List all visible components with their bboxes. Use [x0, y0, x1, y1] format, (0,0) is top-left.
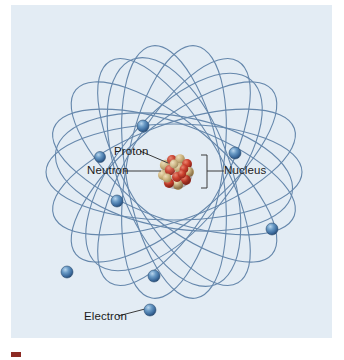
electron-sphere: [144, 304, 156, 316]
electron-sphere: [61, 266, 73, 278]
nucleus-shading: [159, 155, 193, 189]
figure-root: Proton Neutron Nucleus Electron: [0, 0, 344, 360]
atom-diagram-panel: Proton Neutron Nucleus Electron: [11, 5, 332, 338]
caption-marker-icon: [11, 352, 21, 357]
electron-sphere: [229, 147, 241, 159]
label-proton: Proton: [114, 145, 148, 157]
electron-sphere: [266, 223, 278, 235]
atom-illustration: [11, 5, 332, 338]
label-nucleus: Nucleus: [224, 164, 266, 176]
electron-sphere: [95, 152, 106, 163]
electron-sphere: [111, 195, 123, 207]
label-neutron: Neutron: [87, 164, 129, 176]
nucleus-cluster: [158, 154, 194, 190]
nucleus-bracket: [201, 155, 207, 188]
electron-sphere: [137, 120, 149, 132]
electron-sphere: [148, 270, 160, 282]
label-electron: Electron: [84, 310, 127, 322]
figure-caption-bar: [11, 349, 332, 360]
